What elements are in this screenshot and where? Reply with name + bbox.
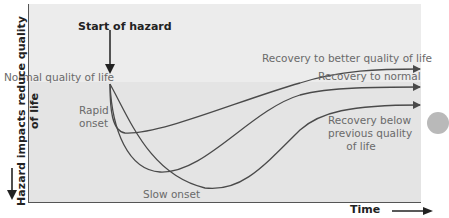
outcome-below-label-line2: previous quality (328, 127, 394, 139)
outcome-normal-label: Recovery to normal (318, 70, 421, 82)
x-axis-label: Time (350, 203, 380, 216)
outcome-better-label: Recovery to better quality of life (262, 52, 432, 64)
page-tab-circle-icon (427, 112, 449, 134)
y-axis-label: Hazard impacts reduce quality of life (15, 13, 41, 209)
rapid-onset-label-line1: Rapid (79, 104, 109, 116)
rapid-onset-label-line2: onset (79, 117, 108, 129)
outcome-below-label-line3: of life (328, 140, 394, 152)
time-arrow-icon (423, 207, 433, 215)
slow-onset-label: Slow onset (143, 188, 200, 200)
start-of-hazard-label: Start of hazard (78, 20, 172, 33)
outcome-below-label-line1: Recovery below (328, 114, 394, 126)
